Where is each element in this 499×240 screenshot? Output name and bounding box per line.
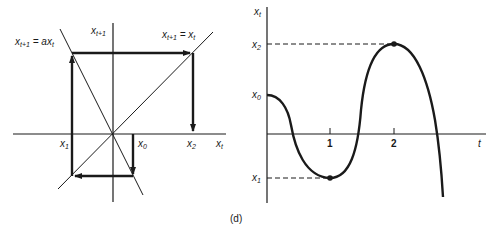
- cobweb-diagram: xt+1 = axt xt+1 xt+1 = xt x1 x0 x2 xt: [13, 23, 226, 202]
- diagonal-line: [58, 32, 213, 189]
- label-y-axis: xt: [253, 6, 262, 18]
- tick-label-2: 2: [391, 138, 397, 149]
- label-x1: x1: [59, 138, 69, 150]
- label-x2-right: x2: [251, 39, 261, 51]
- label-t-axis: t: [478, 138, 482, 149]
- trough-point: [327, 175, 333, 181]
- label-x0: x0: [137, 138, 147, 150]
- figure-canvas: xt+1 = axt xt+1 xt+1 = xt x1 x0 x2 xt: [0, 0, 499, 240]
- label-vertical-axis: xt+1: [90, 25, 106, 37]
- label-diagonal: xt+1 = xt: [161, 29, 196, 41]
- label-x1-right: x1: [251, 172, 261, 184]
- figure-caption: (d): [230, 213, 242, 224]
- label-horizontal-axis: xt: [215, 138, 224, 150]
- time-series-plot: xt x2 x0 x1 1 2 t: [251, 6, 486, 203]
- label-line-a: xt+1 = axt: [14, 36, 55, 48]
- trajectory-curve: [267, 44, 443, 197]
- peak-point: [391, 41, 397, 47]
- label-x2: x2: [186, 138, 196, 150]
- tick-label-1: 1: [327, 138, 333, 149]
- label-x0-right: x0: [251, 89, 261, 101]
